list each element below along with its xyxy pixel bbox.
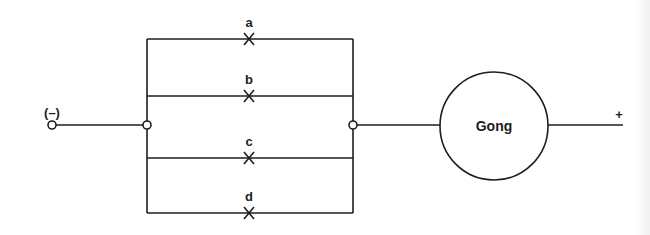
branch-b: b [147,72,353,102]
branch-label-b: b [245,72,253,87]
branch-label-c: c [245,134,252,149]
negative-terminal-label: (–) [44,105,60,120]
scan-edge-shade [634,0,650,235]
branch-label-a: a [245,15,253,30]
branch-label-d: d [245,189,253,204]
circuit-diagram: (–) a b [0,0,650,235]
branch-d: d [147,189,353,219]
negative-terminal-node [48,121,56,129]
branch-c: c [147,134,353,164]
gong-label: Gong [476,118,513,134]
gong-load: Gong [440,72,548,180]
branch-a: a [147,15,353,45]
left-junction-node [143,121,151,129]
positive-terminal-label: + [615,107,623,122]
right-junction-node [349,121,357,129]
circuit-schematic: (–) a b [0,0,650,235]
